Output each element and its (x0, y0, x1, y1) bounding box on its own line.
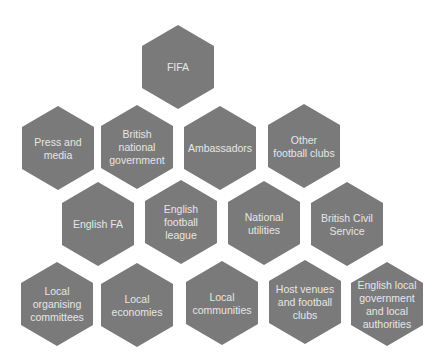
hexagon-label-line: football (164, 216, 198, 228)
hexagon-node-english-fa: English FA (62, 182, 134, 266)
hexagon-label-line: Ambassadors (188, 142, 252, 154)
hexagon-label-line: Press and (34, 136, 81, 148)
hexagon-label-line: media (44, 149, 73, 161)
hexagon-label-line: utilities (248, 224, 280, 236)
hexagon-label-line: English local (358, 279, 417, 291)
hexagon-label-line: economies (112, 306, 163, 318)
hexagon-label-line: national (119, 141, 156, 153)
hexagon-label-line: committees (30, 311, 84, 323)
hexagon-label-line: National (245, 211, 284, 223)
hexagon-node-national-utilities: Nationalutilities (228, 181, 300, 265)
hexagon-label-line: Host venues (276, 283, 334, 295)
hexagon-label-line: Local (44, 285, 69, 297)
hexagon-label-line: and local (366, 305, 408, 317)
hexagon-label-line: league (165, 229, 197, 241)
hexagon-label-line: football clubs (273, 147, 334, 159)
hexagon-node-local-communities: Localcommunities (186, 261, 258, 345)
hexagon-label-line: Local (209, 291, 234, 303)
hexagon-node-british-civil-service: British CivilService (311, 182, 383, 266)
hexagon-label-line: organising (33, 298, 82, 310)
hexagon-node-english-local-government: English localgovernmentand localauthorit… (351, 262, 423, 346)
hexagon-node-other-football-clubs: Otherfootball clubs (268, 104, 340, 188)
stakeholder-hexagon-diagram: FIFAPress andmediaBritishnationalgovernm… (0, 0, 446, 362)
hexagon-label-line: and football (278, 296, 332, 308)
hexagon-label-line: English FA (73, 218, 123, 230)
hexagon-label-line: communities (193, 304, 252, 316)
hexagon-label-line: English (164, 203, 199, 215)
hexagon-node-fifa: FIFA (142, 25, 214, 109)
hexagon-node-english-football-league: Englishfootballleague (145, 180, 217, 264)
hexagon-label-line: government (359, 292, 415, 304)
hexagon-node-ambassadors: Ambassadors (184, 106, 256, 190)
hexagon-node-press-and-media: Press andmedia (22, 106, 94, 190)
hexagon-label-line: Local (124, 293, 149, 305)
hexagon-label-line: clubs (293, 309, 318, 321)
hexagon-label-line: government (109, 154, 165, 166)
hexagon-node-local-organising-committees: Localorganisingcommittees (21, 262, 93, 346)
hexagon-label-line: Other (291, 134, 318, 146)
hexagon-label-line: FIFA (167, 61, 189, 73)
hexagon-label-line: British (122, 128, 151, 140)
hexagon-node-british-national-government: Britishnationalgovernment (101, 105, 173, 189)
hexagon-label-line: authorities (363, 318, 411, 330)
hexagon-node-local-economies: Localeconomies (101, 263, 173, 347)
hexagon-node-host-venues-and-football-clubs: Host venuesand footballclubs (269, 260, 341, 344)
hexagon-label-line: Service (329, 225, 364, 237)
hexagon-label-line: British Civil (321, 212, 373, 224)
